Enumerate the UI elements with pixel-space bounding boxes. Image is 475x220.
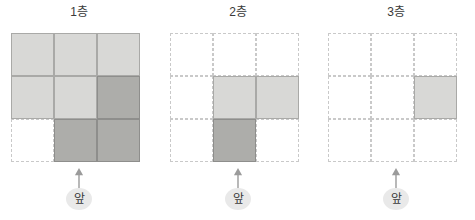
front-label: 앞 — [383, 188, 409, 210]
front-label: 앞 — [66, 188, 92, 210]
floor-panel-1: 1층 앞 — [0, 0, 158, 220]
grid-cell — [11, 33, 54, 76]
grid-cell — [97, 119, 140, 162]
front-label: 앞 — [225, 188, 251, 210]
grid-cell — [97, 33, 140, 76]
grid-cell — [328, 76, 371, 119]
grid-cell — [213, 33, 256, 76]
floor-panel-3: 3층 앞 — [317, 0, 475, 220]
arrow-up-icon — [159, 168, 317, 190]
grid-cell — [371, 119, 414, 162]
grid-cell — [256, 119, 299, 162]
floor-title: 1층 — [0, 4, 158, 20]
grid-cell — [256, 33, 299, 76]
floor-grid — [170, 33, 300, 163]
grid-cell — [414, 119, 457, 162]
grid-cell — [97, 76, 140, 119]
grid-cell — [371, 33, 414, 76]
front-indicator: 앞 — [317, 168, 475, 218]
floor-title: 2층 — [159, 4, 317, 20]
grid-cell — [256, 76, 299, 119]
grid-cell — [414, 76, 457, 119]
floor-title: 3층 — [317, 4, 475, 20]
arrow-up-icon — [0, 168, 158, 190]
grid-cell — [328, 33, 371, 76]
grid-cell — [54, 119, 97, 162]
floor-grid — [328, 33, 458, 163]
grid-cell — [371, 76, 414, 119]
grid-cell — [54, 76, 97, 119]
grid-cell — [213, 119, 256, 162]
grid-cell — [414, 33, 457, 76]
grid-cell — [11, 119, 54, 162]
front-indicator: 앞 — [0, 168, 158, 218]
grid-cell — [170, 33, 213, 76]
floor-grid — [11, 33, 141, 163]
arrow-up-icon — [317, 168, 475, 190]
grid-cell — [213, 76, 256, 119]
grid-cell — [11, 76, 54, 119]
figure-canvas: 1층 앞 2층 — [0, 0, 475, 220]
front-indicator: 앞 — [159, 168, 317, 218]
grid-cell — [54, 33, 97, 76]
grid-cell — [328, 119, 371, 162]
grid-cell — [170, 76, 213, 119]
grid-cell — [170, 119, 213, 162]
floor-panel-2: 2층 앞 — [159, 0, 317, 220]
